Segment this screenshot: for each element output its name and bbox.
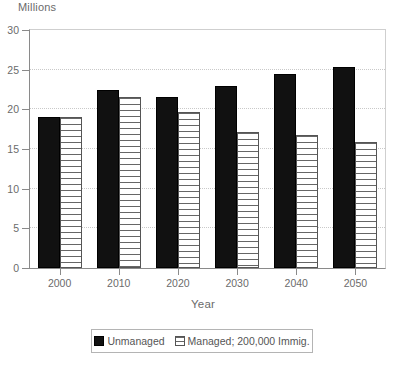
- y-axis-tick: [22, 149, 29, 150]
- y-axis-tick-label: 20: [0, 104, 19, 114]
- bar-group: [38, 30, 82, 268]
- x-axis-tick: [355, 269, 356, 275]
- bar-2040-unmanaged: [274, 74, 296, 268]
- bar-2010-unmanaged: [97, 90, 119, 269]
- x-axis-tick-label: 2020: [166, 277, 189, 289]
- legend-swatch-solid-icon: [94, 336, 104, 346]
- bar-group: [274, 30, 318, 268]
- y-axis-tick: [22, 70, 29, 71]
- x-axis-tick: [178, 269, 179, 275]
- x-axis-tick-label: 2010: [107, 277, 130, 289]
- y-axis-tick: [22, 228, 29, 229]
- y-axis-tick: [22, 268, 29, 269]
- x-axis-tick-label: 2030: [225, 277, 248, 289]
- x-axis-ticks: [30, 269, 385, 277]
- x-axis-tick: [296, 269, 297, 275]
- legend-entry: Managed; 200,000 Immig.: [175, 335, 310, 347]
- y-axis-tick-label: 15: [0, 144, 19, 154]
- x-axis-tick: [237, 269, 238, 275]
- bar-group: [156, 30, 200, 268]
- legend-swatch-hatched-icon: [175, 336, 185, 346]
- y-axis-title: Millions: [18, 1, 56, 13]
- x-axis-tick: [60, 269, 61, 275]
- y-axis-tick-label: 0: [0, 263, 19, 273]
- x-axis-tick-label: 2050: [344, 277, 367, 289]
- legend-label: Unmanaged: [107, 335, 164, 347]
- bar-group: [215, 30, 259, 268]
- y-axis-tick-label: 10: [0, 184, 19, 194]
- bar-chart: Millions 051015202530 200020102020203020…: [0, 0, 406, 366]
- bar-2000-unmanaged: [38, 117, 60, 268]
- y-axis-tick-label: 30: [0, 25, 19, 35]
- x-axis-labels: 200020102020203020402050: [30, 277, 385, 293]
- x-axis-tick-label: 2000: [48, 277, 71, 289]
- bar-2030-managed: [237, 132, 259, 268]
- chart-legend: UnmanagedManaged; 200,000 Immig.: [91, 329, 313, 353]
- bar-2050-managed: [355, 142, 377, 268]
- bar-2020-managed: [178, 112, 200, 268]
- y-axis-tick-label: 5: [0, 223, 19, 233]
- legend-label: Managed; 200,000 Immig.: [188, 335, 310, 347]
- y-axis-tick: [22, 189, 29, 190]
- bar-2030-unmanaged: [215, 86, 237, 268]
- bar-2040-managed: [296, 135, 318, 268]
- legend-entry: Unmanaged: [94, 335, 164, 347]
- bar-2050-unmanaged: [333, 67, 355, 268]
- x-axis-tick-label: 2040: [285, 277, 308, 289]
- x-axis-tick: [119, 269, 120, 275]
- bar-group: [97, 30, 141, 268]
- y-axis-tick: [22, 30, 29, 31]
- bar-2000-managed: [60, 117, 82, 268]
- y-axis-tick: [22, 109, 29, 110]
- y-axis-tick-label: 25: [0, 65, 19, 75]
- bar-2020-unmanaged: [156, 97, 178, 268]
- bars-layer: [30, 30, 385, 268]
- x-axis-title: Year: [0, 298, 406, 310]
- bar-group: [333, 30, 377, 268]
- bar-2010-managed: [119, 97, 141, 268]
